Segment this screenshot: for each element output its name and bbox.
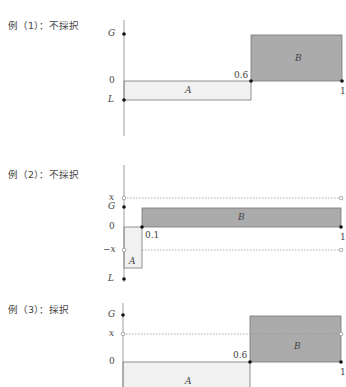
chart-1 bbox=[122, 20, 344, 136]
chart-2 bbox=[122, 165, 343, 282]
region-b-label: B bbox=[294, 341, 301, 351]
tick-06: 0.6 bbox=[234, 70, 248, 80]
tick-l: L bbox=[108, 94, 114, 104]
tick-one: 1 bbox=[340, 367, 346, 377]
tick-one: 1 bbox=[340, 232, 346, 242]
tick-zero: 0 bbox=[109, 356, 115, 366]
chart-3 bbox=[121, 303, 343, 387]
tick-g: G bbox=[108, 28, 115, 38]
tick-l: L bbox=[108, 273, 114, 283]
region-a-label: A bbox=[185, 376, 192, 386]
region-a-label: A bbox=[185, 85, 192, 95]
tick-zero: 0 bbox=[109, 221, 115, 231]
region-b-label: B bbox=[238, 212, 245, 222]
tick-g: G bbox=[108, 309, 115, 319]
region-b bbox=[250, 316, 341, 362]
tick-zero: 0 bbox=[109, 75, 115, 85]
tick-g: G bbox=[108, 201, 115, 211]
tick-01: 0.1 bbox=[145, 230, 159, 240]
region-a-label: A bbox=[129, 256, 136, 266]
tick-06: 0.6 bbox=[233, 350, 247, 360]
region-b-label: B bbox=[295, 53, 302, 63]
tick-neg-x: −x bbox=[103, 244, 116, 254]
tick-x: x bbox=[109, 328, 114, 338]
tick-one: 1 bbox=[340, 86, 346, 96]
